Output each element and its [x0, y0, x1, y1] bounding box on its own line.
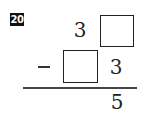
- top-ones-blank-box[interactable]: [100, 15, 134, 47]
- problem-number-badge: 20: [10, 13, 24, 26]
- sum-line: [23, 87, 137, 89]
- result-ones-digit: 5: [110, 92, 124, 112]
- bottom-tens-blank-box[interactable]: [63, 50, 98, 83]
- top-tens-digit: 3: [73, 20, 87, 40]
- minus-sign: [38, 66, 50, 68]
- bottom-ones-digit: 3: [109, 57, 123, 77]
